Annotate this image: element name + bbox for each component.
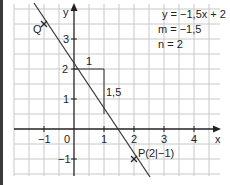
point-q-label: Q bbox=[33, 23, 42, 35]
y-axis-arrow-icon bbox=[71, 3, 78, 11]
x-axis-label: x bbox=[215, 133, 221, 145]
x-tick-2: 2 bbox=[131, 133, 137, 145]
x-tick-4: 4 bbox=[191, 133, 197, 145]
y-tick-2: 2 bbox=[62, 63, 68, 75]
y-axis-label: y bbox=[63, 6, 69, 18]
x-tick-0: 0 bbox=[64, 133, 70, 145]
x-tick-3: 3 bbox=[161, 133, 167, 145]
y-tick-1: 1 bbox=[63, 93, 69, 105]
y-tick-neg1: −1 bbox=[58, 153, 71, 165]
slope-value-label: m = −1,5 bbox=[158, 23, 201, 35]
intercept-value-label: n = 2 bbox=[158, 38, 183, 50]
x-tick-1: 1 bbox=[101, 133, 107, 145]
x-tick-neg1: −1 bbox=[38, 133, 51, 145]
equation-label: y = −1,5x + 2 bbox=[162, 8, 226, 20]
slope-run-label: 1 bbox=[86, 55, 92, 67]
slope-rise-label: 1,5 bbox=[106, 86, 121, 98]
x-axis-arrow-icon bbox=[213, 126, 221, 133]
coordinate-graph: −1 0 1 2 3 4 x −1 1 2 3 y 1 1,5 Q P(2|−1… bbox=[0, 0, 230, 185]
y-tick-3: 3 bbox=[63, 33, 69, 45]
function-line bbox=[34, 3, 150, 177]
point-p-label: P(2|−1) bbox=[138, 147, 174, 159]
